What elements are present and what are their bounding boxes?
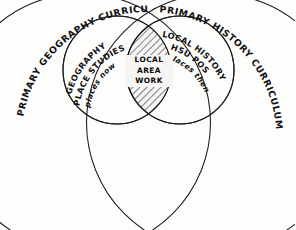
venn-diagram-svg: PRIMARY GEOGRAPHY CURRICULUM PRIMARY HIS…	[0, 0, 295, 230]
venn-diagram-canvas: PRIMARY GEOGRAPHY CURRICULUM PRIMARY HIS…	[0, 0, 295, 230]
label-primary-history-curriculum: PRIMARY HISTORY CURRICULUM	[159, 3, 285, 130]
circle-primary-history-curriculum	[87, 0, 296, 230]
